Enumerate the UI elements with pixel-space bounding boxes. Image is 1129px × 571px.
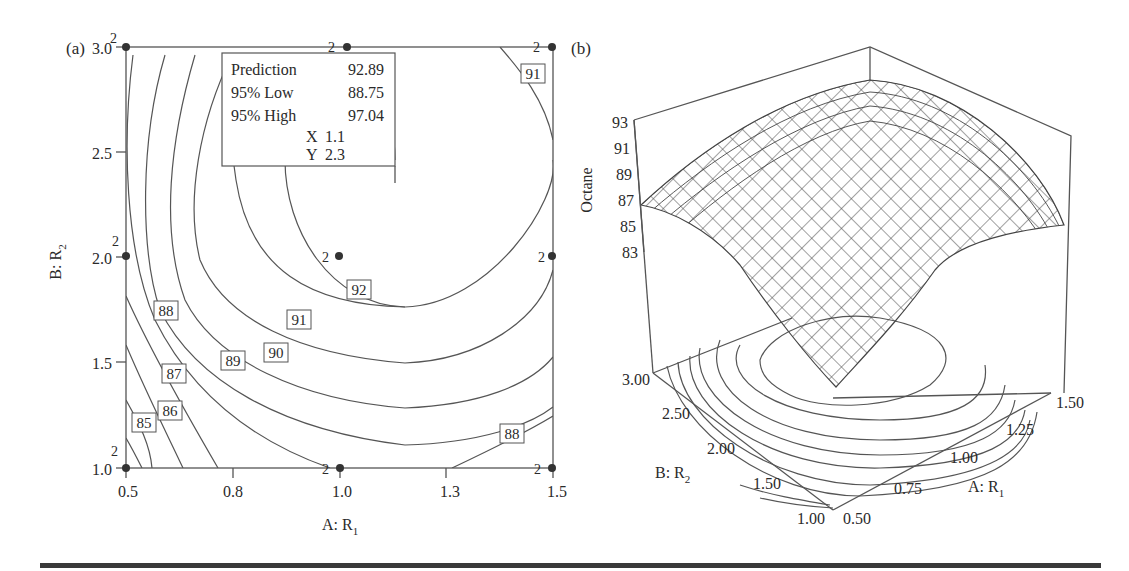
svg-text:2.00: 2.00 bbox=[707, 440, 735, 457]
svg-text:3.00: 3.00 bbox=[622, 371, 650, 388]
svg-text:2.50: 2.50 bbox=[662, 405, 690, 422]
a-axis-title: A: R1 bbox=[968, 478, 1004, 499]
low95-label: 95% Low bbox=[231, 84, 294, 101]
bottom-rule bbox=[40, 563, 1101, 568]
svg-text:2: 2 bbox=[533, 40, 540, 55]
svg-text:88: 88 bbox=[159, 303, 174, 319]
x-coord-value: 1.1 bbox=[325, 128, 345, 145]
svg-text:90: 90 bbox=[269, 345, 284, 361]
x-axis-title: A: R1 bbox=[322, 516, 358, 537]
svg-text:87: 87 bbox=[618, 192, 634, 209]
prediction-tooltip: Prediction 92.89 95% Low 88.75 95% High … bbox=[222, 53, 395, 183]
y-coord-label: Y bbox=[306, 146, 318, 163]
low95-value: 88.75 bbox=[348, 84, 384, 101]
svg-text:93: 93 bbox=[612, 114, 628, 131]
svg-text:91: 91 bbox=[526, 66, 541, 82]
z-axis-title: Octane bbox=[578, 167, 595, 212]
x-coord-label: X bbox=[306, 128, 318, 145]
contour-plot-panel: (a) bbox=[47, 31, 567, 537]
svg-text:2: 2 bbox=[112, 234, 119, 249]
svg-text:1.50: 1.50 bbox=[1056, 394, 1084, 411]
svg-text:85: 85 bbox=[137, 415, 152, 431]
prediction-label: Prediction bbox=[231, 61, 297, 78]
panel-a-label: (a) bbox=[66, 39, 85, 58]
svg-text:89: 89 bbox=[616, 166, 632, 183]
svg-text:1.00: 1.00 bbox=[950, 449, 978, 466]
x-tick-label: 0.5 bbox=[118, 483, 138, 500]
svg-text:2: 2 bbox=[110, 31, 117, 46]
high95-value: 97.04 bbox=[348, 107, 384, 124]
y-axis-title: B: R2 bbox=[47, 244, 68, 279]
x-tick-label: 1.0 bbox=[332, 483, 352, 500]
surface-plot-panel: (b) bbox=[571, 39, 1084, 527]
y-tick-label: 2.5 bbox=[92, 145, 112, 162]
svg-text:1.25: 1.25 bbox=[1006, 421, 1034, 438]
a-axis: 0.50 0.75 1.00 1.25 1.50 A: R1 bbox=[843, 394, 1084, 527]
svg-text:2: 2 bbox=[534, 462, 541, 477]
svg-text:0.75: 0.75 bbox=[894, 480, 922, 497]
high95-label: 95% High bbox=[231, 107, 296, 125]
y-tick-label: 1.0 bbox=[92, 461, 112, 478]
svg-text:83: 83 bbox=[622, 244, 638, 261]
x-tick-label: 1.3 bbox=[440, 483, 460, 500]
svg-text:1.00: 1.00 bbox=[797, 510, 825, 527]
y-axis: 3.0 2.5 2.0 1.5 1.0 B: R2 bbox=[47, 40, 126, 478]
svg-text:92: 92 bbox=[352, 282, 367, 298]
svg-text:86: 86 bbox=[163, 403, 179, 419]
b-axis-title: B: R2 bbox=[655, 464, 690, 485]
svg-text:B: R2: B: R2 bbox=[47, 244, 68, 279]
svg-text:2: 2 bbox=[322, 250, 329, 265]
svg-text:88: 88 bbox=[505, 426, 520, 442]
response-surface-mesh bbox=[641, 80, 1064, 387]
z-axis: 93 91 89 87 85 83 Octane bbox=[578, 114, 644, 261]
svg-text:2: 2 bbox=[111, 444, 118, 459]
y-tick-label: 2.0 bbox=[92, 250, 112, 267]
svg-text:2: 2 bbox=[322, 462, 329, 477]
panel-b-label: (b) bbox=[571, 39, 591, 58]
svg-text:89: 89 bbox=[226, 353, 241, 369]
x-tick-label: 0.8 bbox=[223, 483, 243, 500]
y-coord-value: 2.3 bbox=[325, 146, 345, 163]
svg-text:91: 91 bbox=[292, 312, 307, 328]
x-axis: 0.5 0.8 1.0 1.3 1.5 A: R1 bbox=[118, 468, 567, 537]
x-tick-label: 1.5 bbox=[547, 483, 567, 500]
svg-text:85: 85 bbox=[620, 218, 636, 235]
y-tick-label: 1.5 bbox=[92, 355, 112, 372]
prediction-value: 92.89 bbox=[348, 61, 384, 78]
svg-text:0.50: 0.50 bbox=[843, 510, 871, 527]
svg-text:87: 87 bbox=[167, 366, 183, 382]
svg-text:1.50: 1.50 bbox=[753, 475, 781, 492]
y-tick-label: 3.0 bbox=[92, 40, 112, 57]
b-axis: 3.00 2.50 2.00 1.50 1.00 B: R2 bbox=[622, 371, 825, 527]
svg-text:2: 2 bbox=[538, 250, 545, 265]
figure: (a) bbox=[0, 0, 1129, 571]
svg-text:91: 91 bbox=[614, 140, 630, 157]
